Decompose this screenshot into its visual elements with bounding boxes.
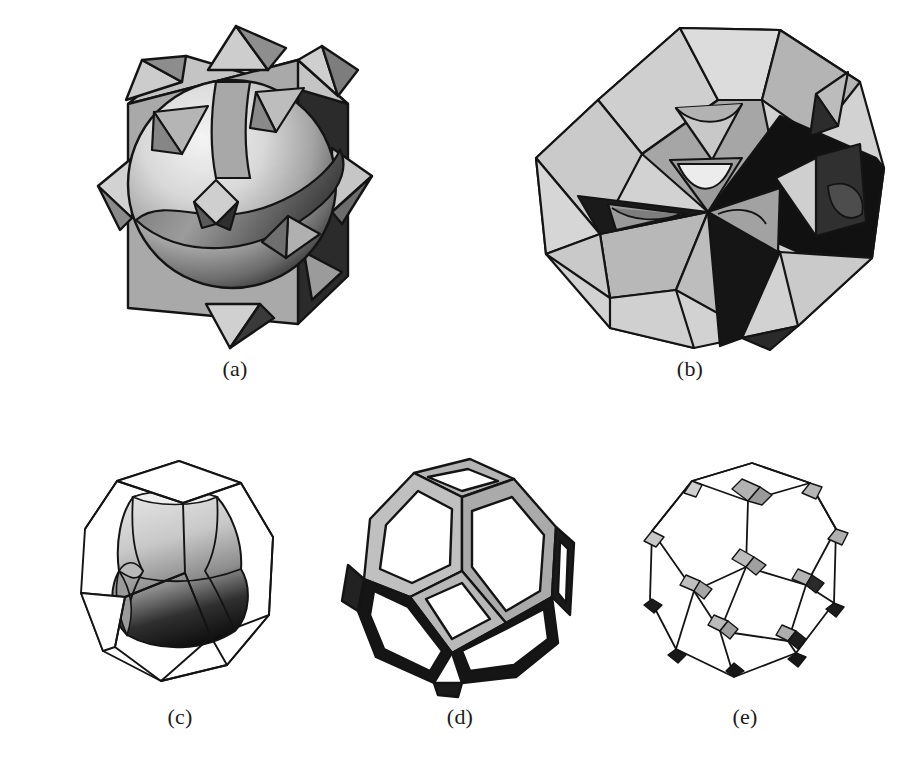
panel-b-label: (b) — [480, 358, 900, 380]
sphere-strap — [212, 82, 251, 178]
panel-a-drawing — [90, 8, 380, 358]
panel-c-label: (c) — [55, 706, 305, 728]
panel-e-drawing — [620, 445, 870, 700]
panel-a-label: (a) — [90, 358, 380, 380]
panel-c-wireframe-with-inner-surface — [55, 445, 305, 700]
figure-root: (a) — [0, 0, 919, 770]
panel-e-wireframe-with-vertex-patches — [620, 445, 870, 700]
panel-d-drawing — [330, 445, 590, 700]
panel-d-open-framework — [330, 445, 590, 700]
panel-e-label: (e) — [620, 706, 870, 728]
panel-a-sphere-in-spiked-cube — [90, 8, 380, 358]
panel-c-drawing — [55, 445, 305, 700]
panel-b-drawing — [480, 8, 900, 358]
panel-d-label: (d) — [330, 706, 590, 728]
framework-rims — [342, 459, 574, 697]
panel-b-faceted-polyhedron — [480, 8, 900, 358]
inner-body — [112, 491, 248, 647]
